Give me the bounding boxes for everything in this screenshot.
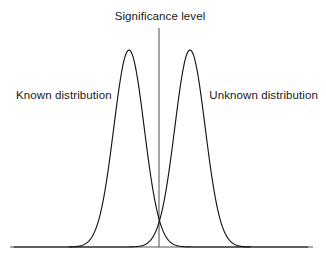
known-distribution-label: Known distribution bbox=[16, 89, 112, 101]
figure-background bbox=[0, 0, 326, 261]
significance-level-figure: Significance level Known distribution Un… bbox=[0, 0, 326, 261]
unknown-distribution-label: Unknown distribution bbox=[209, 89, 318, 101]
significance-level-title: Significance level bbox=[115, 10, 206, 22]
figure-canvas: Significance level Known distribution Un… bbox=[0, 0, 326, 261]
